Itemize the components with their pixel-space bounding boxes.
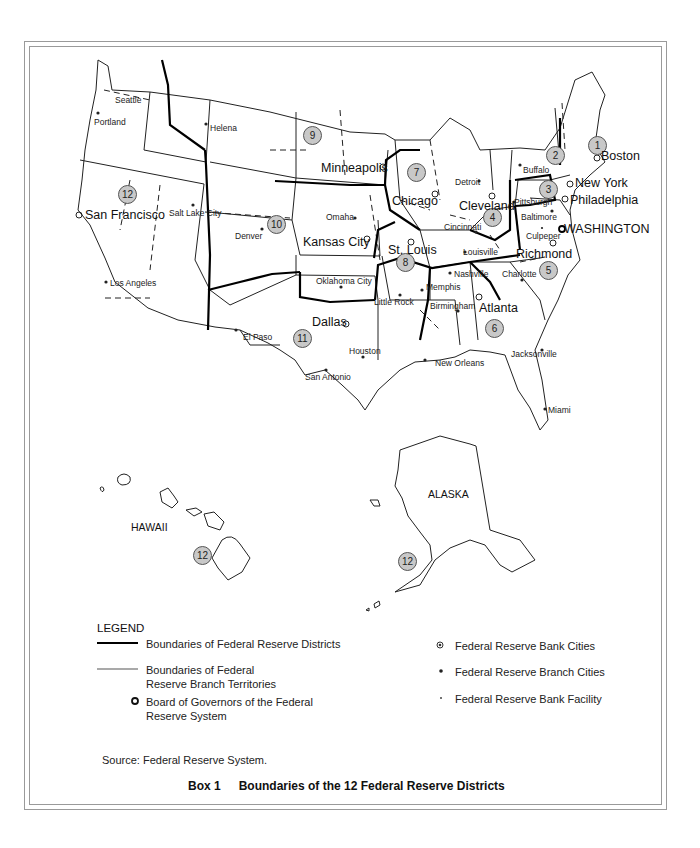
- city-label-cleveland: Cleveland: [459, 200, 515, 213]
- district-badge-9: 9: [303, 126, 322, 145]
- district-badge-7: 7: [407, 163, 426, 182]
- city-label-denver: Denver: [235, 232, 262, 241]
- city-label-new-orleans: New Orleans: [435, 359, 484, 368]
- city-label-san-antonio: San Antonio: [305, 373, 351, 382]
- city-label-culpeper: Culpeper: [526, 232, 561, 241]
- city-label-new-york: New York: [575, 177, 628, 190]
- city-label-portland: Portland: [94, 118, 126, 127]
- city-label-oklahoma-city: Oklahoma City: [316, 277, 372, 286]
- figure-caption: Box 1Boundaries of the 12 Federal Reserv…: [188, 779, 505, 793]
- city-label-little-rock: Little Rock: [374, 298, 414, 307]
- city-label-chicago: Chicago: [392, 195, 438, 208]
- city-label-minneapolis: Minneapolis: [321, 162, 388, 175]
- hawaii-district-badge: 12: [193, 546, 212, 565]
- city-label-philadelphia: Philadelphia: [570, 194, 638, 207]
- city-label-miami: Miami: [548, 406, 571, 415]
- legend-label-branch-boundaries: Boundaries of Federal Reserve Branch Ter…: [146, 663, 296, 691]
- alaska-label: ALASKA: [428, 489, 469, 500]
- alaska-outline: [395, 436, 535, 592]
- legend-branch-city-icon: [439, 669, 443, 673]
- legend-board-icon: [132, 698, 138, 704]
- city-label-detroit: Detroit: [455, 178, 480, 187]
- district-badge-2: 2: [546, 146, 565, 165]
- legend-label-bank-cities: Federal Reserve Bank Cities: [455, 639, 595, 653]
- legend-label-board-of-governors: Board of Governors of the Federal Reserv…: [146, 695, 356, 723]
- district-badge-11: 11: [293, 329, 312, 348]
- city-label-jacksonville: Jacksonville: [511, 350, 557, 359]
- alaska-district-badge: 12: [398, 552, 417, 571]
- legend-facility-icon: [440, 697, 442, 699]
- city-label-charlotte: Charlotte: [502, 270, 537, 279]
- city-label-boston: Boston: [601, 150, 640, 163]
- city-label-san-francisco: San Francisco: [85, 209, 165, 222]
- city-label-dallas: Dallas: [312, 316, 347, 329]
- city-label-helena: Helena: [210, 124, 237, 133]
- city-label-buffalo: Buffalo: [523, 166, 549, 175]
- city-label-cincinnati: Cincinnati: [444, 223, 481, 232]
- city-label-atlanta: Atlanta: [479, 302, 518, 315]
- hawaii-label: HAWAII: [131, 522, 168, 533]
- city-label-omaha: Omaha: [326, 213, 354, 222]
- legend-title: LEGEND: [97, 622, 144, 634]
- district-badge-10: 10: [267, 215, 286, 234]
- city-label-kansas-city: Kansas City: [303, 236, 370, 249]
- caption-title: Boundaries of the 12 Federal Reserve Dis…: [239, 779, 505, 793]
- city-label-pittsburgh: Pittsburgh: [514, 198, 552, 207]
- city-label-salt-lake-city: Salt Lake City: [169, 209, 221, 218]
- city-label-baltimore: Baltimore: [521, 213, 557, 222]
- city-label-nashville: Nashville: [454, 270, 489, 279]
- box-number: Box 1: [188, 779, 221, 793]
- district-badge-6: 6: [485, 319, 504, 338]
- district-badge-5: 5: [539, 261, 558, 280]
- city-label-st-louis: St. Louis: [388, 244, 437, 257]
- legend-label-bank-facility: Federal Reserve Bank Facility: [455, 692, 602, 706]
- city-label-richmond: Richmond: [516, 248, 572, 261]
- legend-label-district-boundaries: Boundaries of Federal Reserve Districts: [146, 637, 340, 651]
- city-label-seattle: Seattle: [115, 96, 141, 105]
- source-note: Source: Federal Reserve System.: [102, 754, 267, 766]
- legend-label-branch-cities: Federal Reserve Branch Cities: [455, 665, 605, 679]
- city-label-el-paso: El Paso: [243, 333, 272, 342]
- city-label-washington: WASHINGTON: [564, 223, 649, 236]
- hawaii-islands: [100, 474, 250, 580]
- city-label-los-angeles: Los Angeles: [110, 279, 156, 288]
- city-label-birmingham: Birmingham: [430, 302, 475, 311]
- district-badge-12: 12: [118, 185, 137, 204]
- city-label-louisville: Louisville: [463, 248, 498, 257]
- city-label-houston: Houston: [349, 347, 381, 356]
- city-label-memphis: Memphis: [426, 283, 460, 292]
